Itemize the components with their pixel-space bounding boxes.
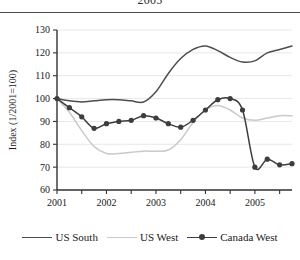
y-tick-label: 130 xyxy=(35,24,50,35)
legend-swatch-icon xyxy=(187,233,217,243)
y-axis-title: Index (1/2001=100) xyxy=(7,70,19,150)
line-chart-svg: 60708090100110120130 2001200220032004200… xyxy=(0,18,300,208)
data-point-marker xyxy=(228,96,233,101)
data-point-marker xyxy=(104,121,109,126)
legend-label: US West xyxy=(140,232,178,243)
x-tick-label: 2003 xyxy=(146,197,166,208)
chart-legend: US SouthUS WestCanada West xyxy=(0,232,300,243)
x-tick-labels: 20012002200320042005 xyxy=(47,197,265,208)
x-axis xyxy=(57,190,292,194)
data-point-marker xyxy=(54,96,59,101)
data-point-marker xyxy=(141,113,146,118)
data-point-marker xyxy=(153,115,158,120)
header-divider xyxy=(0,12,300,13)
y-tick-label: 80 xyxy=(40,139,50,150)
series-line xyxy=(57,98,292,170)
y-tick-label: 70 xyxy=(40,162,50,173)
x-tick-label: 2002 xyxy=(96,197,116,208)
legend-label: Canada West xyxy=(220,232,277,243)
data-point-marker xyxy=(215,97,220,102)
x-tick-label: 2005 xyxy=(245,197,265,208)
data-point-marker xyxy=(289,161,294,166)
y-tick-label: 100 xyxy=(35,93,50,104)
x-tick-label: 2001 xyxy=(47,197,67,208)
y-tick-label: 110 xyxy=(35,70,50,81)
data-point-marker xyxy=(67,105,72,110)
y-tick-labels: 60708090100110120130 xyxy=(35,24,50,195)
data-point-marker xyxy=(203,107,208,112)
data-point-marker xyxy=(166,121,171,126)
y-axis xyxy=(53,30,57,190)
data-point-marker xyxy=(190,118,195,123)
page-header-title: 2005 xyxy=(0,0,300,7)
data-point-marker xyxy=(252,165,257,170)
plot-area: 60708090100110120130 2001200220032004200… xyxy=(0,18,300,208)
series-canada-west xyxy=(54,96,294,170)
y-tick-label: 90 xyxy=(40,116,50,127)
y-tick-label: 60 xyxy=(40,184,50,195)
y-axis-title-text: Index (1/2001=100) xyxy=(7,70,19,150)
y-tick-label: 120 xyxy=(35,47,50,58)
legend-entry-us-west[interactable]: US West xyxy=(107,232,178,243)
legend-label: US South xyxy=(55,232,98,243)
data-point-marker xyxy=(265,157,270,162)
legend-swatch-icon xyxy=(107,233,137,243)
legend-swatch-icon xyxy=(22,233,52,243)
data-point-marker xyxy=(277,162,282,167)
series-line xyxy=(57,46,292,103)
data-point-marker xyxy=(178,125,183,130)
data-point-marker xyxy=(116,119,121,124)
legend-entry-canada-west[interactable]: Canada West xyxy=(187,232,277,243)
data-point-marker xyxy=(79,114,84,119)
chart-figure: 2005 60708090100110120130 20012002200320… xyxy=(0,0,300,260)
series-us-south xyxy=(57,46,292,103)
legend-entry-us-south[interactable]: US South xyxy=(22,232,98,243)
data-point-marker xyxy=(129,118,134,123)
data-series xyxy=(54,46,294,170)
data-point-marker xyxy=(92,126,97,131)
data-point-marker xyxy=(240,107,245,112)
x-tick-label: 2004 xyxy=(195,197,215,208)
